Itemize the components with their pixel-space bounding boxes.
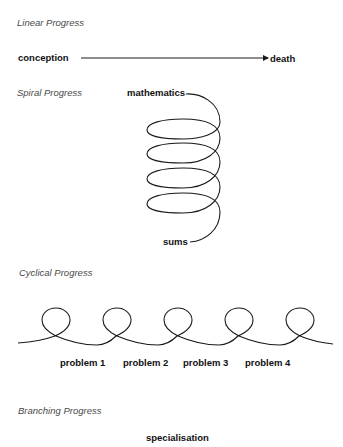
spiral-helix: [147, 94, 220, 242]
diagram-canvas: [0, 0, 343, 447]
cyclical-loops: [18, 308, 333, 345]
